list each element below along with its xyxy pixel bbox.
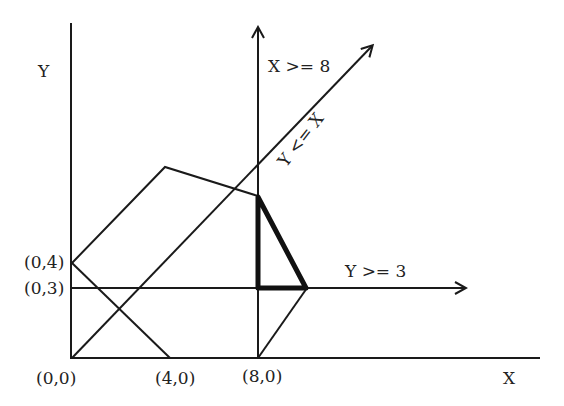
- label-x-ge-8: X >= 8: [268, 56, 330, 76]
- upper-boundary-line: [72, 167, 258, 263]
- y-axis-label: Y: [37, 61, 50, 81]
- constraint-line-y-le-x: [72, 46, 372, 358]
- x-axis-label: X: [503, 368, 516, 388]
- feasible-region-triangle: [258, 197, 306, 288]
- line-8-0-to-corner: [258, 288, 307, 358]
- label-0-4: (0,4): [24, 252, 64, 272]
- label-origin: (0,0): [36, 368, 76, 388]
- lp-diagram: Y X (0,0) (4,0) (8,0) (0,4) (0,3) X >= 8…: [0, 0, 564, 406]
- label-y-ge-3: Y >= 3: [344, 261, 406, 281]
- label-4-0: (4,0): [155, 368, 195, 388]
- label-0-3: (0,3): [24, 278, 64, 298]
- label-8-0: (8,0): [242, 366, 282, 386]
